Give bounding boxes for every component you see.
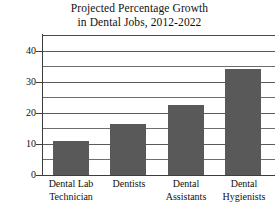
category-label-line-1: Dental Lab xyxy=(49,178,94,189)
chart-title: Projected Percentage Growth in Dental Jo… xyxy=(0,1,279,29)
x-axis-category-labels: Dental LabTechnicianDentistsDentalAssist… xyxy=(42,178,279,218)
y-axis-tick xyxy=(36,175,42,176)
bar xyxy=(168,105,204,175)
bar xyxy=(225,69,261,175)
y-axis-tick-label: 0 xyxy=(10,170,36,180)
category-label-line-1: Dental xyxy=(231,178,258,189)
category-label-line-1: Dental xyxy=(173,178,200,189)
chart-title-line-1: Projected Percentage Growth xyxy=(0,1,279,15)
y-axis-tick-label: 20 xyxy=(10,108,36,118)
x-axis-line xyxy=(42,175,275,176)
bar xyxy=(53,141,89,175)
bar-chart: Projected Percentage Growth in Dental Jo… xyxy=(0,0,279,218)
y-axis-tick-label: 10 xyxy=(10,139,36,149)
x-axis-category-label: DentalHygienists xyxy=(210,178,278,203)
y-axis-tick-label: 30 xyxy=(10,77,36,87)
category-label-line-2: Hygienists xyxy=(210,191,278,204)
y-axis-tick-label: 40 xyxy=(10,46,36,56)
bar-series xyxy=(42,35,275,175)
bar xyxy=(110,124,146,175)
category-label-line-2: Technician xyxy=(37,191,105,204)
category-label-line-1: Dentists xyxy=(113,178,146,189)
chart-title-line-2: in Dental Jobs, 2012-2022 xyxy=(0,15,279,29)
